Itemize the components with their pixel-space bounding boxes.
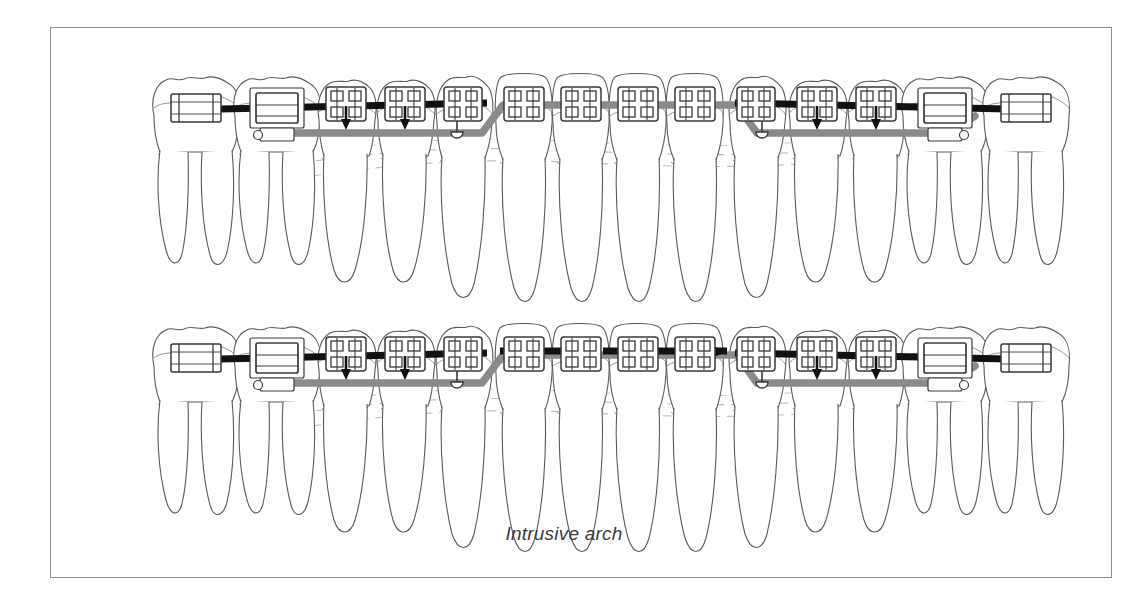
appliance-bracket-incisor-1l xyxy=(561,87,601,121)
upper-arch xyxy=(153,74,1070,302)
lower-arch xyxy=(153,324,1070,552)
appliance-bracket-incisor-2r xyxy=(675,87,715,121)
appliance-buccal-tube-left xyxy=(171,344,221,372)
figure-caption: Intrusive arch xyxy=(0,523,1128,545)
appliance-buccal-tube-right xyxy=(1001,344,1051,372)
appliance-bracket-incisor-1r xyxy=(618,337,658,371)
appliance-bracket-incisor-2l xyxy=(504,337,544,371)
orthodontic-diagram xyxy=(0,0,1128,601)
appliance-buccal-tube-left xyxy=(171,94,221,122)
appliance-bracket-incisor-2l xyxy=(504,87,544,121)
appliance-bracket-incisor-2r xyxy=(675,337,715,371)
appliance-bracket-incisor-1l xyxy=(561,337,601,371)
figure-root: Intrusive arch xyxy=(0,0,1128,601)
appliance-buccal-tube-right xyxy=(1001,94,1051,122)
appliance-bracket-incisor-1r xyxy=(618,87,658,121)
